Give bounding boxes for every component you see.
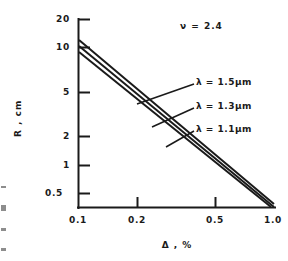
leader-line-1-5 [137, 84, 194, 104]
annotation-nu: ν = 2.4 [180, 22, 223, 31]
curve-lambda-1-5 [79, 40, 274, 204]
x-axis-title: Δ , % [147, 241, 207, 250]
legend-label-lambda-1-3: λ = 1.3μm [196, 102, 252, 111]
x-tick-label-1-0: 1.0 [253, 216, 288, 225]
y-tick-label-1: 1 [36, 161, 70, 170]
figure-chart-bend-radius: 20 10 5 2 1 0.5 0.1 0.2 0.5 1.0 Δ , % R … [0, 0, 288, 261]
y-tick-label-2: 2 [36, 132, 70, 141]
x-tick-label-0-2: 0.2 [117, 216, 157, 225]
y-tick-label-20: 20 [36, 15, 70, 24]
y-axis-title: R , cm [14, 100, 23, 137]
legend-label-lambda-1-1: λ = 1.1μm [196, 125, 252, 134]
y-tick-label-10: 10 [36, 43, 70, 52]
y-tick-label-5: 5 [36, 88, 70, 97]
legend-label-lambda-1-5: λ = 1.5μm [196, 78, 252, 87]
x-axis-ticks [138, 197, 216, 208]
y-tick-label-0-5: 0.5 [29, 189, 63, 198]
x-tick-label-0-1: 0.1 [58, 216, 98, 225]
x-tick-label-0-5: 0.5 [195, 216, 235, 225]
